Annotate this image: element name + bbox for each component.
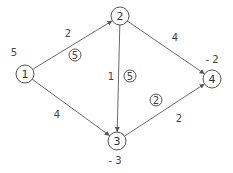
node-4: 4 <box>203 70 221 88</box>
edge-cost-label: 4 <box>54 109 60 120</box>
edge-3-4 <box>125 84 205 136</box>
edge-cost-label: 2 <box>65 28 71 39</box>
node-2: 2 <box>111 7 129 25</box>
network-flow-diagram: 25415422 1234 5- 3- 2 <box>0 0 233 173</box>
edge-flow-label: 5 <box>72 50 78 61</box>
edge-cost-label: 4 <box>172 32 178 43</box>
node-label: 4 <box>209 73 216 86</box>
edge-2-3 <box>117 25 120 132</box>
node-1: 1 <box>16 65 34 83</box>
edge-flow-label: 5 <box>127 71 133 82</box>
node-label: 3 <box>114 135 121 148</box>
node-supply-label: 5 <box>11 47 17 58</box>
node-label: 1 <box>22 68 29 81</box>
node-supply-label: - 3 <box>108 155 121 166</box>
edge-cost-label: 1 <box>108 71 114 82</box>
edge-cost-label: 2 <box>176 113 182 124</box>
edge-1-2 <box>33 21 113 70</box>
edge-flow-label: 2 <box>153 95 159 106</box>
node-label: 2 <box>117 10 124 23</box>
edge-1-3 <box>32 79 109 135</box>
node-3: 3 <box>108 132 126 150</box>
node-supply-label: - 2 <box>205 54 218 65</box>
edge-2-4 <box>127 21 204 74</box>
